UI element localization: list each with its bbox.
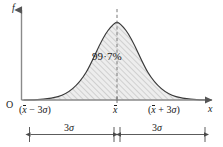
lower-bound-xbar: x: [22, 105, 26, 115]
normal-distribution-figure: f x O 99·7% (x − 3σ) x (x + 3σ) 3σ 3σ: [0, 0, 223, 147]
dimension-right-sigma: σ: [157, 122, 162, 133]
mean-xbar: x: [113, 105, 117, 115]
lower-bound-operator: − 3: [27, 104, 43, 115]
lower-bound-close-paren: ): [47, 104, 50, 115]
figure-canvas: [0, 0, 223, 147]
lower-bound-label: (x − 3σ): [19, 105, 51, 115]
area-percentage-label: 99·7%: [92, 51, 122, 62]
x-axis-label: x: [208, 104, 212, 114]
upper-bound-close-paren: ): [176, 104, 179, 115]
upper-bound-xbar: x: [151, 105, 155, 115]
mean-label: x: [113, 105, 117, 115]
upper-bound-operator: + 3: [156, 104, 172, 115]
upper-bound-label: (x + 3σ): [148, 105, 180, 115]
dimension-label-left: 3σ: [64, 123, 74, 133]
dimension-left-sigma: σ: [69, 122, 74, 133]
y-axis-label: f: [12, 3, 15, 13]
dimension-label-right: 3σ: [152, 123, 162, 133]
origin-label: O: [6, 100, 13, 110]
